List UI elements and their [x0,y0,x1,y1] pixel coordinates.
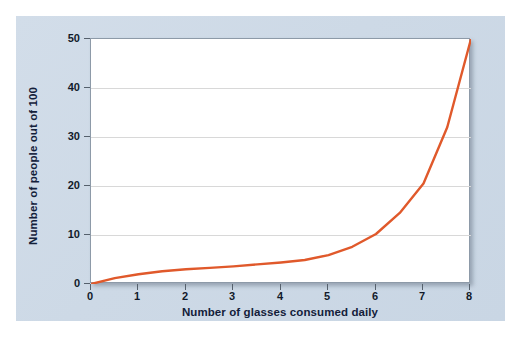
ticklabel-x-8: 8 [466,290,472,302]
ticklabel-x-3: 3 [229,290,235,302]
ticklabel-y-10: 10 [54,228,80,240]
ticklabel-x-2: 2 [182,290,188,302]
ticklabel-x-1: 1 [134,290,140,302]
ticklabel-x-7: 7 [419,290,425,302]
tick-y-20 [84,185,90,186]
tick-y-50 [84,38,90,39]
ticklabel-y-20: 20 [54,179,80,191]
tick-y-30 [84,136,90,137]
ticklabel-y-40: 40 [54,81,80,93]
tick-y-40 [84,87,90,88]
ticklabel-x-6: 6 [372,290,378,302]
plot-canvas [91,39,471,284]
x-axis-title: Number of glasses consumed daily [90,306,470,318]
ticklabel-x-0: 0 [87,290,93,302]
ticklabel-y-50: 50 [54,32,80,44]
ticklabel-y-0: 0 [54,277,80,289]
y-axis-title: Number of people out of 100 [27,81,39,251]
gridlines [91,88,471,235]
data-series-line [91,39,471,284]
plot-area [90,38,470,283]
ticklabel-x-5: 5 [324,290,330,302]
ticklabel-y-30: 30 [54,130,80,142]
tick-y-10 [84,234,90,235]
ticklabel-x-4: 4 [277,290,283,302]
chart-figure: 0 10 20 30 40 50 0 1 2 3 4 5 6 7 8 Numbe… [0,0,520,345]
